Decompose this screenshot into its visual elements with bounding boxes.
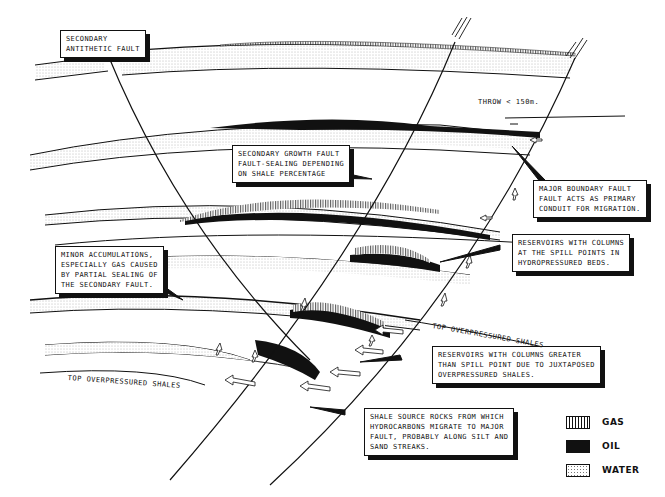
legend-label-water: WATER <box>602 465 640 475</box>
oil-swatch <box>566 440 590 453</box>
legend-item-water: WATER <box>566 458 640 482</box>
callout-antithetic-fault: SECONDARY ANTITHETIC FAULT <box>60 30 146 58</box>
callout-spill-points: RESERVOIRS WITH COLUMNS AT THE SPILL POI… <box>512 234 630 272</box>
callout-source-rocks: SHALE SOURCE ROCKS FROM WHICH HYDROCARBO… <box>364 408 514 456</box>
throw-label: THROW < 150m. <box>478 98 539 106</box>
callout-boundary-fault: MAJOR BOUNDARY FAULT FAULT ACTS AS PRIMA… <box>533 180 647 218</box>
legend-item-gas: GAS <box>566 410 640 434</box>
callout-minor-accumulations: MINOR ACCUMULATIONS, ESPECIALLY GAS CAUS… <box>55 246 164 294</box>
legend-item-oil: OIL <box>566 434 640 458</box>
water-swatch <box>566 464 590 477</box>
gas-swatch <box>566 416 590 429</box>
legend: GAS OIL WATER <box>566 410 640 482</box>
callout-greater-than-spill: RESERVOIRS WITH COLUMNS GREATER THAN SPI… <box>432 346 601 384</box>
legend-label-gas: GAS <box>602 417 624 427</box>
legend-label-oil: OIL <box>602 441 620 451</box>
callout-growth-fault: SECONDARY GROWTH FAULT FAULT-SEALING DEP… <box>232 145 350 183</box>
